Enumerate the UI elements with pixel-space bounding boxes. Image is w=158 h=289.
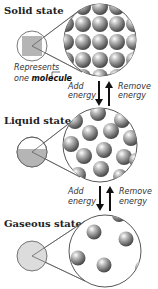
solid-state-group: Solid state	[4, 0, 142, 85]
add-energy-line1: Add	[67, 82, 85, 91]
callout-text-line1: Represents	[14, 63, 59, 72]
remove-energy-line1: Remove	[118, 82, 151, 91]
remove-energy-line1: Remove	[119, 187, 152, 196]
add-energy-line2: energy	[68, 91, 96, 100]
gaseous-state-title: Gaseous state	[4, 218, 82, 229]
liquid-state-group: Liquid state	[4, 105, 143, 183]
states-of-matter-diagram: Solid state	[0, 0, 158, 289]
remove-energy-line2: energy	[119, 197, 147, 206]
transition-liquid-gas: Add energy Remove energy	[67, 186, 152, 211]
remove-energy-line2: energy	[118, 91, 146, 100]
add-energy-line2: energy	[68, 197, 96, 206]
add-energy-line1: Add	[67, 187, 85, 196]
gaseous-state-group: Gaseous state	[4, 208, 149, 287]
liquid-state-title: Liquid state	[4, 115, 71, 126]
solid-molecules	[58, 0, 142, 85]
solid-state-title: Solid state	[4, 5, 64, 16]
liquid-molecules	[63, 105, 143, 183]
callout-text-line2: one molecule	[14, 74, 73, 83]
transition-solid-liquid: Add energy Remove energy	[67, 81, 151, 106]
